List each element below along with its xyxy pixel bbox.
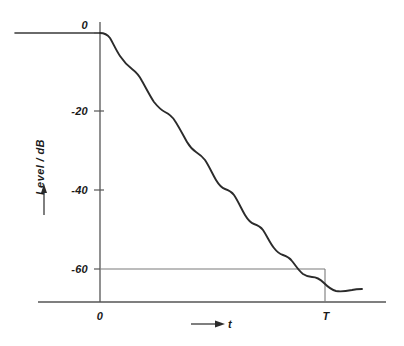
right-arrow-icon [191, 321, 225, 328]
decay-curve-path [100, 33, 362, 291]
y-tick-label-0: 0 [82, 19, 89, 31]
x-axis-title: t [228, 318, 233, 330]
y-tick-label-minus-40: -40 [71, 184, 88, 196]
decay-curve-figure: 0 -20 -40 -60 0 T Level / dB t [0, 0, 404, 346]
x-tick-label-origin: 0 [97, 310, 104, 322]
x-tick-label-T: T [322, 310, 330, 322]
y-tick-label-minus-60: -60 [71, 263, 88, 275]
y-tick-label-minus-20: -20 [71, 105, 88, 117]
